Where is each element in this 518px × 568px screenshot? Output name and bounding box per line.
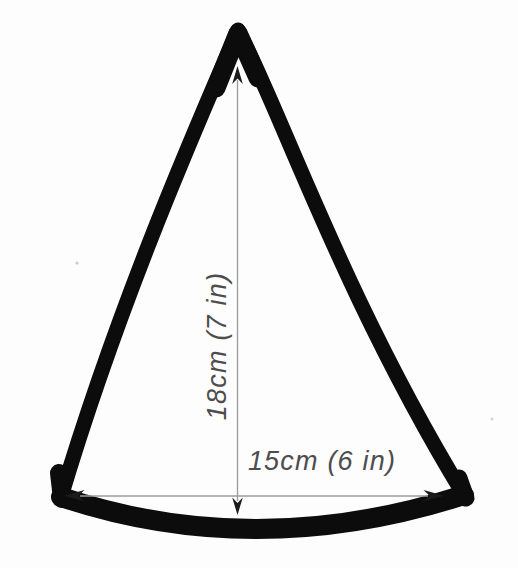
height-label: 18cm (7 in) <box>202 272 232 420</box>
width-label: 15cm (6 in) <box>248 446 396 476</box>
apex-stroke <box>216 33 258 88</box>
pattern-diagram: 18cm (7 in) 15cm (6 in) <box>0 0 518 568</box>
paper-speck <box>490 417 493 420</box>
paper-speck <box>75 261 78 264</box>
bottom-right-corner-stroke <box>459 478 466 498</box>
cone-pattern-figure: 18cm (7 in) 15cm (6 in) <box>0 0 518 568</box>
bottom-left-corner-stroke <box>59 473 62 499</box>
base-stroke <box>61 495 464 529</box>
